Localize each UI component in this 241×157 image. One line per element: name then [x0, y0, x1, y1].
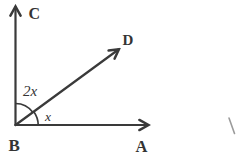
point-label-b: B — [9, 136, 20, 155]
point-label-d: D — [123, 32, 134, 48]
stray-mark — [229, 118, 235, 134]
angle-label-2x: 2x — [23, 83, 38, 99]
angle-arc-x — [34, 112, 38, 125]
geometry-figure: C D A B 2x x — [0, 0, 241, 157]
point-label-a: A — [136, 137, 148, 156]
angle-diagram-canvas: C D A B 2x x — [0, 0, 241, 157]
angle-arc-2x — [16, 104, 33, 113]
angle-label-x: x — [44, 109, 51, 124]
point-label-c: C — [29, 5, 41, 22]
